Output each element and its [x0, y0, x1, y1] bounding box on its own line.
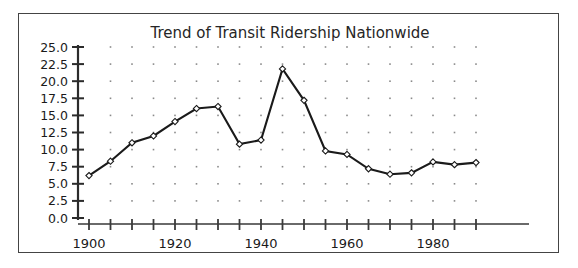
x-axis-tick-labels: 19001920194019601980	[72, 236, 449, 251]
y-axis-tick-label: 20.0	[40, 74, 68, 89]
y-axis-tick-label: 22.5	[40, 57, 68, 72]
grid-dots	[110, 46, 477, 202]
data-point-marker	[322, 148, 328, 154]
y-axis: 0.02.55.07.510.012.515.017.520.022.525.0	[40, 40, 84, 226]
data-point-marker	[387, 171, 393, 177]
y-axis-tick-label: 5.0	[48, 176, 68, 191]
x-axis-tick-label: 1920	[158, 236, 191, 251]
y-axis-tick-labels: 0.02.55.07.510.012.515.017.520.022.525.0	[40, 40, 68, 226]
data-point-marker	[451, 162, 457, 168]
y-axis-tick-label: 2.5	[48, 193, 68, 208]
x-axis-tick-label: 1900	[72, 236, 105, 251]
y-axis-tick-label: 15.0	[40, 108, 68, 123]
x-axis-tick-label: 1960	[330, 236, 363, 251]
y-axis-tick-label: 12.5	[40, 125, 68, 140]
data-point-marker	[473, 159, 479, 165]
chart-title: Trend of Transit Ridership Nationwide	[149, 24, 429, 42]
series-polyline	[89, 69, 476, 176]
chart-figure: 0.02.55.07.510.012.515.017.520.022.525.0…	[0, 0, 578, 268]
y-axis-tick-label: 7.5	[48, 159, 68, 174]
y-axis-tick-label: 10.0	[40, 142, 68, 157]
chart-canvas: 0.02.55.07.510.012.515.017.520.022.525.0…	[0, 0, 578, 268]
x-axis: 19001920194019601980	[72, 219, 529, 251]
data-series-line	[86, 66, 479, 179]
y-axis-tick-label: 17.5	[40, 91, 68, 106]
data-point-marker	[258, 137, 264, 143]
x-axis-tick-label: 1940	[244, 236, 277, 251]
series-markers	[86, 66, 479, 179]
x-axis-tick-label: 1980	[416, 236, 449, 251]
y-axis-tick-label: 25.0	[40, 40, 68, 55]
y-axis-tick-label: 0.0	[48, 211, 68, 226]
